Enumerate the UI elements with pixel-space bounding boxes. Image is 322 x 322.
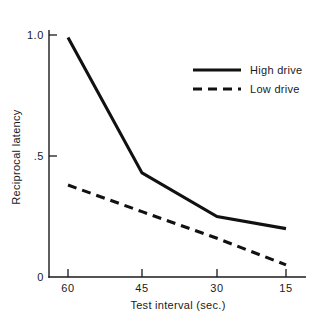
- legend-label-low-drive: Low drive: [250, 83, 300, 95]
- x-tick-label-45: 45: [135, 282, 148, 294]
- chart-figure: 1.0 .5 0 60 45 30 15 Test interval (sec.…: [0, 0, 322, 322]
- y-tick-label-0.5: .5: [34, 150, 44, 162]
- series-line-low-drive: [68, 185, 286, 265]
- x-axis-title: Test interval (sec.): [130, 299, 225, 311]
- x-tick-label-60: 60: [61, 282, 74, 294]
- y-tick-label-0: 0: [37, 271, 44, 283]
- legend-label-high-drive: High drive: [250, 64, 303, 76]
- x-tick-label-30: 30: [210, 282, 223, 294]
- y-axis-title: Reciprocal latency: [10, 109, 22, 204]
- line-chart: 1.0 .5 0 60 45 30 15 Test interval (sec.…: [0, 0, 322, 322]
- x-tick-label-15: 15: [279, 282, 292, 294]
- y-tick-label-1.0: 1.0: [27, 29, 44, 41]
